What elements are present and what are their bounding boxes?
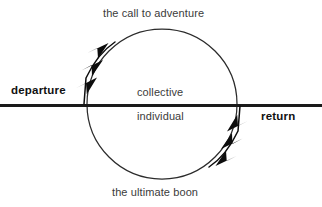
label-ultimate-boon: the ultimate boon (112, 186, 198, 199)
label-individual: individual (137, 110, 184, 123)
descent-chevron-2 (81, 60, 103, 76)
label-call-to-adventure: the call to adventure (103, 7, 204, 20)
label-departure: departure (11, 84, 66, 97)
diagram-canvas (0, 0, 322, 207)
ascent-chevron-3 (227, 115, 248, 132)
label-return: return (261, 110, 295, 123)
hero-journey-diagram: the call to adventure collective individ… (0, 0, 322, 207)
ascent-chevron-2 (221, 133, 243, 149)
descent-chevron-3 (76, 78, 97, 95)
label-collective: collective (137, 86, 183, 99)
